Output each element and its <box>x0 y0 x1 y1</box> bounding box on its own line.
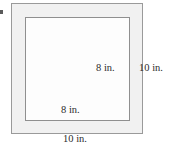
dimension-diagram: 8 in. 10 in. 8 in. 10 in. <box>0 0 171 150</box>
inner-square-bottom-side-label: 8 in. <box>61 104 80 116</box>
edge-artifact-mark <box>0 10 3 14</box>
outer-square-right-side-label: 10 in. <box>139 62 163 74</box>
inner-square-right-side-label: 8 in. <box>96 62 115 74</box>
outer-square-bottom-side-label: 10 in. <box>63 133 87 145</box>
